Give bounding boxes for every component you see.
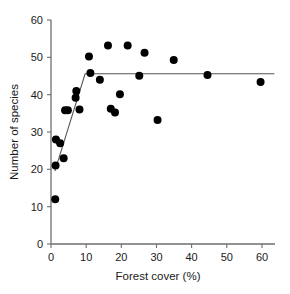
y-tick-label-50: 50 (31, 51, 43, 63)
y-tick-label-60: 60 (31, 14, 43, 26)
x-tick-label-40: 40 (185, 251, 197, 263)
data-point (170, 56, 178, 64)
data-point (116, 90, 124, 98)
data-point (51, 195, 59, 203)
y-tick-label-30: 30 (31, 126, 43, 138)
y-tick-labels: 0 10 20 30 40 50 60 (31, 14, 43, 250)
data-point (104, 41, 112, 49)
fitted-regression-line (55, 74, 274, 171)
data-point (154, 116, 162, 124)
x-tick-labels: 0 10 20 30 40 50 60 (48, 251, 268, 263)
x-tick-label-50: 50 (221, 251, 233, 263)
data-point (141, 49, 149, 57)
y-tick-label-40: 40 (31, 89, 43, 101)
y-axis-title: Number of species (8, 84, 20, 180)
data-point (257, 78, 265, 86)
data-point (96, 76, 104, 84)
data-point (86, 69, 94, 77)
data-point (64, 106, 72, 114)
data-points-group (51, 41, 264, 203)
data-point (124, 41, 132, 49)
x-tick-label-0: 0 (48, 251, 54, 263)
data-point (85, 53, 93, 61)
x-tick-label-10: 10 (80, 251, 92, 263)
x-tick-label-20: 20 (115, 251, 127, 263)
x-tick-label-30: 30 (150, 251, 162, 263)
y-tick-label-20: 20 (31, 163, 43, 175)
data-point (56, 139, 64, 147)
data-point (203, 71, 211, 79)
axes-group (51, 20, 275, 244)
scatter-plot: 0 10 20 30 40 50 60 0 10 20 30 40 50 60 (0, 0, 290, 294)
data-point (72, 87, 80, 95)
data-point (52, 162, 60, 170)
x-axis-title: Forest cover (%) (116, 270, 201, 282)
y-tick-label-0: 0 (37, 238, 43, 250)
data-point (60, 154, 68, 162)
data-point (111, 109, 119, 117)
data-point (135, 72, 143, 80)
x-tick-label-60: 60 (256, 251, 268, 263)
y-tick-label-10: 10 (31, 201, 43, 213)
figure-container: 0 10 20 30 40 50 60 0 10 20 30 40 50 60 (0, 0, 290, 294)
data-point (75, 106, 83, 114)
